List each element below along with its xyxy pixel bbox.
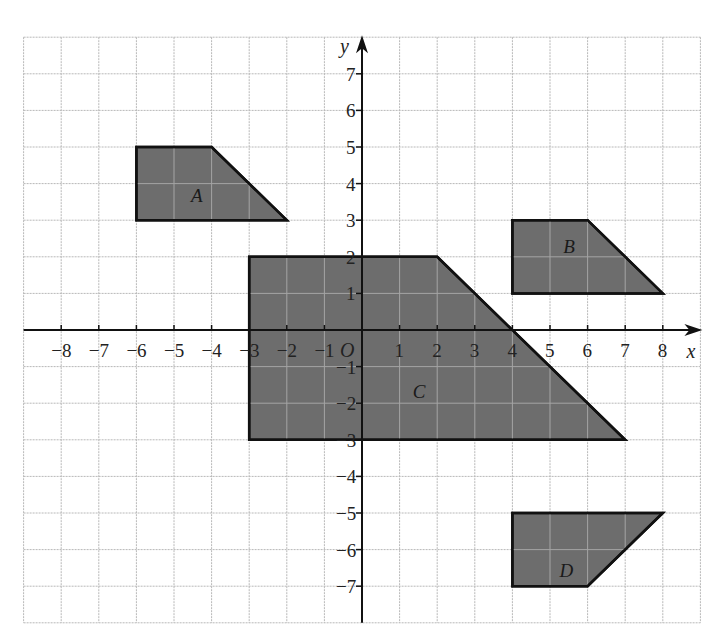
x-tick-label: 4: [507, 340, 517, 361]
y-tick-label: 3: [346, 210, 356, 231]
origin-label: O: [340, 339, 354, 361]
shape-label-c: C: [413, 381, 426, 402]
y-tick-label: 6: [346, 100, 356, 121]
y-tick-label: 5: [346, 137, 356, 158]
y-tick-label: 1: [346, 283, 356, 304]
y-tick-label: −7: [336, 576, 356, 597]
y-tick-label: 2: [346, 247, 356, 268]
x-tick-label: 5: [545, 340, 555, 361]
y-tick-label: −6: [336, 540, 356, 561]
y-tick-label: −4: [336, 466, 357, 487]
coordinate-grid-figure: ABCD−8−7−6−5−4−3−2−1123456787654321−1−2−…: [0, 0, 722, 630]
y-axis-label: y: [338, 35, 349, 58]
shape-label-d: D: [558, 560, 573, 581]
y-tick-label: 4: [346, 174, 356, 195]
shape-label-b: B: [563, 236, 575, 257]
y-tick-label: −2: [336, 393, 356, 414]
x-tick-label: 7: [620, 340, 630, 361]
x-tick-label: −4: [202, 340, 223, 361]
coordinate-plane: ABCD−8−7−6−5−4−3−2−1123456787654321−1−2−…: [0, 0, 722, 630]
x-tick-label: −8: [51, 340, 71, 361]
x-axis-label: x: [685, 340, 695, 362]
y-tick-label: −3: [336, 430, 356, 451]
x-tick-label: 8: [658, 340, 668, 361]
shape-label-a: A: [189, 185, 203, 206]
x-tick-label: 2: [432, 340, 442, 361]
x-tick-label: 1: [395, 340, 405, 361]
x-tick-label: 6: [583, 340, 593, 361]
x-tick-label: −2: [277, 340, 297, 361]
x-tick-label: −1: [314, 340, 334, 361]
y-tick-label: −5: [336, 503, 356, 524]
x-tick-label: 3: [470, 340, 480, 361]
x-tick-label: −3: [239, 340, 259, 361]
y-tick-label: 7: [346, 64, 356, 85]
x-tick-label: −5: [164, 340, 184, 361]
x-tick-label: −6: [126, 340, 146, 361]
x-tick-label: −7: [89, 340, 109, 361]
